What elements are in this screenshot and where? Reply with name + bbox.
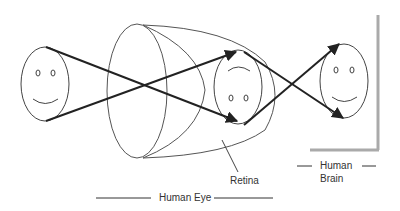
light-rays (46, 44, 343, 125)
human-brain-label-line2: Brain (320, 173, 343, 184)
human-eye-label: Human Eye (159, 192, 212, 203)
retina-label: Retina (230, 175, 259, 186)
brain-frame (108, 15, 379, 150)
retina-image-face (214, 50, 262, 124)
human-brain-label-line1: Human (320, 160, 352, 171)
object-face (21, 47, 69, 121)
eye-diagram: Retina Human Eye Human Brain (0, 0, 400, 211)
